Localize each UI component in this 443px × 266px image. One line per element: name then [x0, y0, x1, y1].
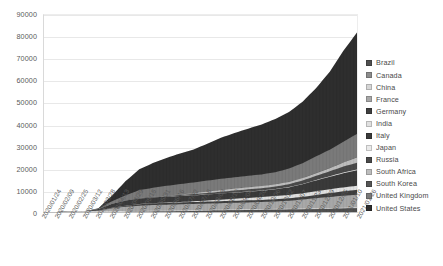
legend-item[interactable]: Italy [366, 130, 443, 142]
legend-item-label: Canada [376, 72, 402, 79]
legend-item-label: Brazil [376, 59, 395, 66]
legend-item[interactable]: South Korea [366, 178, 443, 190]
legend-item[interactable]: Brazil [366, 57, 443, 69]
legend-item[interactable]: United States [366, 202, 443, 214]
legend-item[interactable]: Japan [366, 142, 443, 154]
legend-color-swatch-icon [366, 169, 372, 175]
legend-item-label: Russia [376, 156, 399, 163]
legend-item[interactable]: United Kingdom [366, 190, 443, 202]
chart-legend: BrazilCanadaChinaFranceGermanyIndiaItaly… [366, 57, 443, 214]
y-axis-tick-label: 50000 [17, 98, 38, 107]
legend-color-swatch-icon [366, 193, 372, 199]
legend-color-swatch-icon [366, 205, 372, 211]
y-axis-tick-label: 10000 [17, 186, 38, 195]
plot-area [43, 14, 358, 213]
legend-color-swatch-icon [366, 108, 372, 114]
legend-item[interactable]: South Africa [366, 166, 443, 178]
legend-color-swatch-icon [366, 72, 372, 78]
legend-item-label: Italy [376, 132, 390, 139]
legend-item-label: France [376, 96, 399, 103]
legend-item-label: Germany [376, 108, 406, 115]
legend-item[interactable]: India [366, 117, 443, 129]
legend-item[interactable]: Russia [366, 154, 443, 166]
legend-item-label: United Kingdom [376, 192, 429, 199]
legend-color-swatch-icon [366, 60, 372, 66]
y-axis-tick-label: 90000 [17, 10, 38, 19]
y-axis-tick-label: 20000 [17, 164, 38, 173]
legend-color-swatch-icon [366, 96, 372, 102]
legend-item-label: China [376, 84, 395, 91]
y-axis-tick-label: 40000 [17, 120, 38, 129]
legend-color-swatch-icon [366, 121, 372, 127]
y-axis-tick-label: 60000 [17, 76, 38, 85]
x-axis: 2020/01/242020/02/092020/02/252020/03/12… [43, 214, 358, 266]
legend-item-label: South Africa [376, 168, 416, 175]
y-axis-tick-label: 70000 [17, 54, 38, 63]
stacked-area-series-svg [44, 15, 357, 212]
y-axis-tick-label: 0 [33, 209, 37, 218]
legend-color-swatch-icon [366, 181, 372, 187]
y-axis-tick-label: 30000 [17, 142, 38, 151]
legend-item-label: India [376, 120, 392, 127]
legend-item[interactable]: China [366, 81, 443, 93]
legend-color-swatch-icon [366, 145, 372, 151]
legend-item-label: Japan [376, 144, 396, 151]
y-axis: 0100002000030000400005000060000700008000… [0, 14, 40, 213]
legend-item-label: United States [376, 205, 420, 212]
legend-item[interactable]: France [366, 93, 443, 105]
legend-item[interactable]: Canada [366, 69, 443, 81]
legend-item-label: South Korea [376, 180, 417, 187]
stacked-area-chart: 0100002000030000400005000060000700008000… [0, 0, 443, 266]
legend-color-swatch-icon [366, 157, 372, 163]
legend-item[interactable]: Germany [366, 105, 443, 117]
legend-color-swatch-icon [366, 133, 372, 139]
y-axis-tick-label: 80000 [17, 32, 38, 41]
legend-color-swatch-icon [366, 84, 372, 90]
